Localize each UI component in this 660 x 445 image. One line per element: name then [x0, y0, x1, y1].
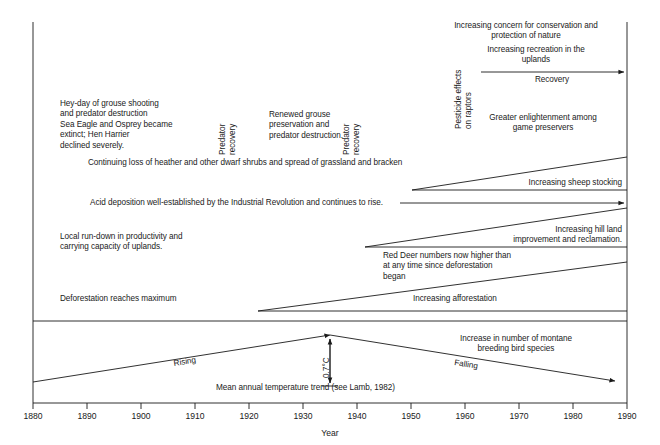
- x-tick-1930: 1930: [283, 411, 323, 421]
- x-tick-1900: 1900: [121, 411, 161, 421]
- label-temperature-delta: 0.7°C: [322, 357, 332, 378]
- label-deforestation-max: Deforestation reaches maximum: [60, 294, 176, 304]
- figure-line-art: [0, 0, 660, 445]
- label-renewed-grouse: Renewed grouse preservation and predator…: [269, 110, 343, 141]
- x-axis-ticks: [33, 403, 627, 409]
- label-acid-deposition: Acid deposition well-established by the …: [90, 198, 383, 208]
- x-tick-1910: 1910: [175, 411, 215, 421]
- label-temperature-trend: Mean annual temperature trend (see Lamb,…: [216, 383, 395, 393]
- label-predator-recovery-2: Predator recovery: [342, 124, 363, 155]
- x-tick-1990: 1990: [607, 411, 647, 421]
- x-tick-1950: 1950: [391, 411, 431, 421]
- x-tick-1890: 1890: [67, 411, 107, 421]
- label-productivity-rundown: Local run-down in productivity and carry…: [60, 232, 183, 253]
- label-heather-loss: Continuing loss of heather and other dwa…: [88, 158, 402, 168]
- x-tick-1960: 1960: [445, 411, 485, 421]
- label-enlightenment: Greater enlightenment among game preserv…: [462, 113, 624, 134]
- label-red-deer: Red Deer numbers now higher than at any …: [383, 251, 511, 282]
- label-grouse-heyday: Hey-day of grouse shooting and predator …: [60, 99, 172, 151]
- label-rising: Rising: [173, 355, 197, 369]
- x-axis-title: Year: [300, 428, 360, 438]
- label-afforestation: Increasing afforestation: [413, 294, 497, 304]
- label-recovery: Recovery: [480, 75, 624, 85]
- label-montane-birds: Increase in number of montane breeding b…: [434, 334, 598, 355]
- label-conservation-concern: Increasing concern for conservation and …: [428, 21, 624, 42]
- x-tick-1980: 1980: [553, 411, 593, 421]
- x-tick-1940: 1940: [337, 411, 377, 421]
- label-sheep-stocking: Increasing sheep stocking: [430, 178, 622, 188]
- label-recreation-uplands: Increasing recreation in the uplands: [448, 45, 624, 66]
- x-tick-1970: 1970: [499, 411, 539, 421]
- label-predator-recovery-1: Predator recovery: [218, 124, 239, 155]
- label-hill-land: Increasing hill land improvement and rec…: [430, 225, 622, 246]
- x-tick-1880: 1880: [13, 411, 53, 421]
- timeline-figure: Hey-day of grouse shooting and predator …: [0, 0, 660, 445]
- label-falling: Falling: [453, 358, 478, 372]
- x-tick-1920: 1920: [229, 411, 269, 421]
